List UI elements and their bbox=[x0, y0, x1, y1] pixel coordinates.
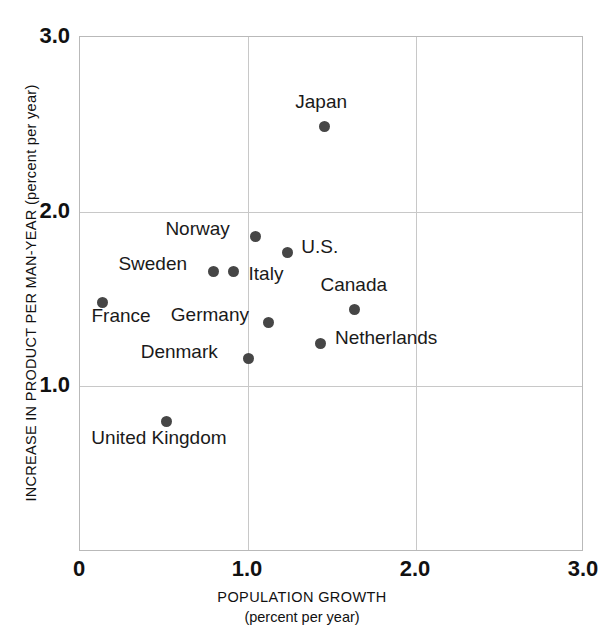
data-point-label: Norway bbox=[165, 219, 229, 238]
data-point-label: Germany bbox=[171, 305, 249, 324]
y-axis-tick-label: 3.0 bbox=[4, 25, 70, 47]
y-axis-tick-label: 2.0 bbox=[4, 200, 70, 222]
data-point bbox=[282, 247, 293, 258]
gridline-horizontal bbox=[80, 212, 582, 213]
gridline-vertical bbox=[416, 37, 417, 550]
gridline-vertical bbox=[248, 37, 249, 550]
scatter-plot-figure: JapanNorwayU.S.SwedenItalyFranceCanadaGe… bbox=[0, 0, 604, 629]
data-point-label: United Kingdom bbox=[91, 428, 226, 447]
data-point-label: France bbox=[92, 306, 151, 325]
data-point-label: Italy bbox=[249, 264, 284, 283]
x-axis-tick-label: 2.0 bbox=[375, 558, 455, 580]
data-point bbox=[315, 338, 326, 349]
data-point-label: Canada bbox=[321, 275, 388, 294]
data-point bbox=[250, 231, 261, 242]
data-point-label: Japan bbox=[295, 92, 347, 111]
x-axis-tick-label: 0 bbox=[39, 558, 119, 580]
data-point-label: Netherlands bbox=[335, 328, 437, 347]
data-point bbox=[319, 121, 330, 132]
data-point bbox=[208, 266, 219, 277]
data-point-label: U.S. bbox=[301, 237, 338, 256]
data-point bbox=[161, 416, 172, 427]
x-axis-subtitle: (percent per year) bbox=[0, 608, 604, 626]
data-point bbox=[263, 317, 274, 328]
x-axis-tick-label: 3.0 bbox=[543, 558, 604, 580]
data-point-label: Sweden bbox=[118, 254, 187, 273]
x-axis-title: POPULATION GROWTH bbox=[0, 588, 604, 606]
y-axis-title: INCREASE IN PRODUCT PER MAN-YEAR (percen… bbox=[22, 8, 40, 578]
data-point-label: Denmark bbox=[141, 342, 218, 361]
gridline-horizontal bbox=[80, 386, 582, 387]
y-axis-tick-label: 1.0 bbox=[4, 374, 70, 396]
x-axis-tick-label: 1.0 bbox=[207, 558, 287, 580]
